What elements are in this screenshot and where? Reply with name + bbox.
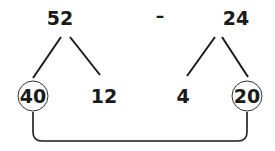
branch-line-52-40 [33, 37, 61, 78]
branch-line-24-20 [222, 37, 248, 77]
bracket-connector-40-20 [33, 112, 247, 141]
split-left-tens: 40 [20, 87, 46, 106]
branch-line-24-4 [187, 37, 215, 76]
number-bond-diagram: 52 – 24 40 12 4 20 [0, 0, 275, 151]
split-left-ones: 12 [91, 87, 117, 106]
minuend-value: 52 [47, 9, 73, 28]
subtrahend-value: 24 [223, 9, 249, 28]
split-right-ones: 4 [176, 87, 189, 106]
minus-operator: – [156, 8, 165, 25]
branch-line-52-12 [70, 37, 100, 75]
split-right-tens: 20 [234, 87, 260, 106]
